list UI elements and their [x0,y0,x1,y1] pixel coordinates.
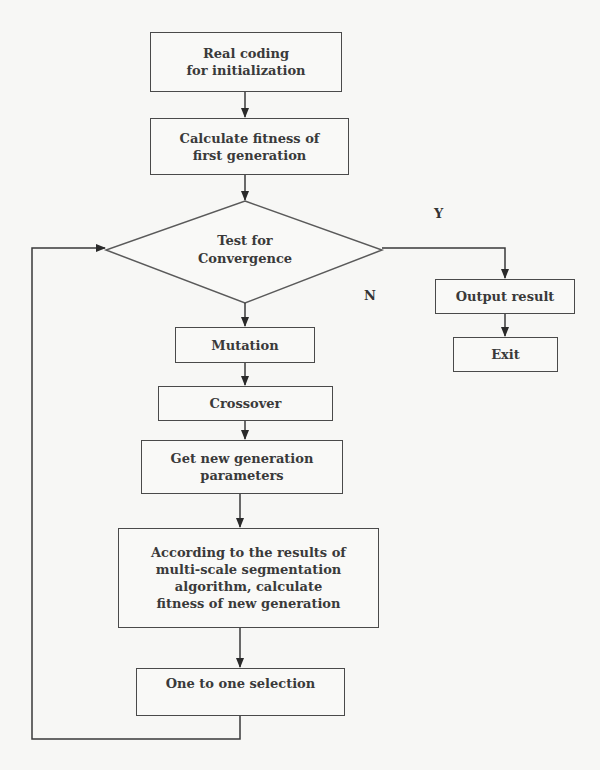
node-test-convergence: Test for Convergence [165,232,325,268]
node-text: According to the results of [151,544,346,561]
connectors [0,0,600,770]
node-output-result: Output result [435,279,575,314]
node-text: Output result [456,288,555,305]
node-crossover: Crossover [158,386,333,421]
node-calculate-fitness-new: According to the results of multi-scale … [118,528,379,628]
node-text: fitness of new generation [157,595,341,612]
node-get-new-generation-parameters: Get new generation parameters [141,440,343,494]
node-text: Test for [165,232,325,250]
node-text: for initialization [186,62,305,79]
node-text: One to one selection [166,675,315,692]
node-text: Crossover [210,395,282,412]
node-exit: Exit [453,337,558,372]
node-one-to-one-selection: One to one selection [136,668,345,716]
node-text: algorithm, calculate [175,578,322,595]
node-text: multi-scale segmentation [156,561,342,578]
node-text: Get new generation [171,450,314,467]
flowchart: Real coding for initialization Calculate… [0,0,600,770]
node-text: first generation [193,147,307,164]
node-text: Calculate fitness of [180,130,320,147]
edge-label-yes: Y [434,206,443,221]
node-real-coding-init: Real coding for initialization [150,32,342,92]
arrow-convergence-to-output [382,248,505,278]
edge-label-no: N [364,288,376,303]
node-calculate-fitness-first: Calculate fitness of first generation [150,118,349,175]
node-mutation: Mutation [175,327,315,363]
node-text: parameters [200,467,283,484]
node-text: Real coding [203,45,289,62]
node-text: Convergence [165,250,325,268]
node-text: Exit [491,346,520,363]
node-text: Mutation [211,337,278,354]
